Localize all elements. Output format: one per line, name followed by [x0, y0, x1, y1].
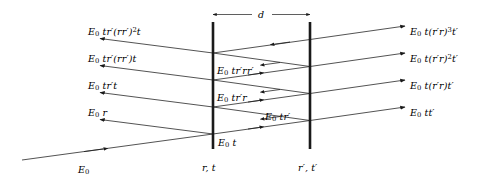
surface-lines — [213, 22, 310, 149]
dimension-label-d: d — [258, 9, 264, 20]
reflected-ray-label-3: E0 tr′(rr′)t — [88, 54, 136, 65]
incident-ray — [22, 134, 213, 160]
reflected-ray-4 — [100, 39, 213, 54]
internal-ray-label-3: E0 tr′r — [217, 93, 247, 104]
internal-ray-label-2: E0 tr′ — [265, 112, 290, 123]
transmitted-ray-1 — [310, 107, 405, 121]
transmitted-rays — [310, 26, 405, 121]
transmitted-ray-label-2: E0 t(r′r)t′ — [410, 81, 454, 92]
internal-ray-label-1: E0 t — [218, 138, 236, 149]
reflected-ray-2 — [100, 93, 213, 108]
transmitted-ray-2 — [310, 80, 405, 94]
optics-ray-diagram: d E0 tr′(rr′)2t E0 tr′(rr′)t E0 tr′t E0 … — [0, 0, 489, 185]
transmitted-ray-label-1: E0 tt′ — [410, 108, 435, 119]
internal-ray-7-forward — [213, 40, 310, 54]
reflected-ray-label-4: E0 tr′(rr′)2t — [88, 27, 141, 38]
reflected-ray-1 — [100, 120, 213, 135]
reflected-ray-label-2: E0 tr′t — [88, 81, 117, 92]
left-surface-label: r, t — [202, 163, 216, 173]
incident-beam-label: E0 — [78, 165, 89, 176]
reflected-ray-label-1: E0 r — [88, 108, 107, 119]
internal-rays — [213, 40, 310, 135]
incident-ray-arrowhead — [84, 149, 106, 152]
internal-ray-label-4: E0 tr′rr′ — [217, 66, 254, 77]
internal-ray-2-back — [213, 107, 310, 121]
transmitted-ray-3 — [310, 53, 405, 67]
transmitted-ray-4 — [310, 26, 405, 40]
transmitted-ray-label-3: E0 t(r′r)2t′ — [410, 54, 458, 65]
transmitted-ray-label-4: E0 t(r′r)3t′ — [410, 27, 458, 38]
reflected-ray-3 — [100, 66, 213, 81]
right-surface-label: r′, t′ — [298, 163, 317, 173]
